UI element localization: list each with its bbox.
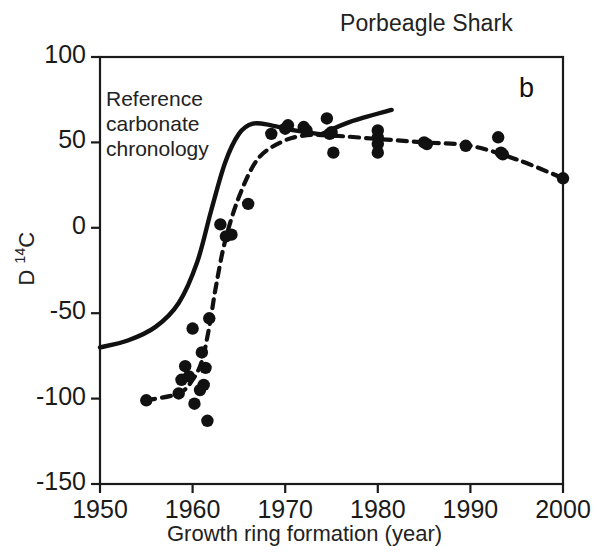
data-point [199, 362, 211, 374]
series-line [100, 123, 336, 347]
data-point [225, 228, 237, 240]
data-point [300, 124, 312, 136]
plot-canvas [0, 0, 609, 559]
data-point [327, 146, 339, 158]
series-line [146, 135, 563, 400]
data-point [198, 379, 210, 391]
data-point [186, 322, 198, 334]
data-point [325, 126, 337, 138]
y-tick-label--150: -150 [2, 467, 86, 496]
data-points [140, 112, 569, 427]
data-point [214, 218, 226, 230]
y-tick-label--100: -100 [2, 382, 86, 411]
data-point [421, 138, 433, 150]
data-point [201, 415, 213, 427]
data-point [203, 312, 215, 324]
x-tick-label-2000: 2000 [508, 495, 609, 524]
data-point [173, 387, 185, 399]
data-point [497, 148, 509, 160]
y-tick-label-50: 50 [2, 125, 86, 154]
figure-panel-b: Porbeagle Shark b Reference carbonate ch… [0, 0, 609, 559]
data-point [372, 146, 384, 158]
data-point [188, 398, 200, 410]
data-point [140, 394, 152, 406]
data-point [492, 131, 504, 143]
data-point [183, 370, 195, 382]
data-point [196, 346, 208, 358]
data-point [321, 112, 333, 124]
data-point [460, 140, 472, 152]
data-point [282, 119, 294, 131]
y-tick-label-0: 0 [2, 211, 86, 240]
data-point [265, 128, 277, 140]
y-tick-label-100: 100 [2, 40, 86, 69]
data-point [242, 198, 254, 210]
data-point [557, 172, 569, 184]
y-tick-label--50: -50 [2, 296, 86, 325]
